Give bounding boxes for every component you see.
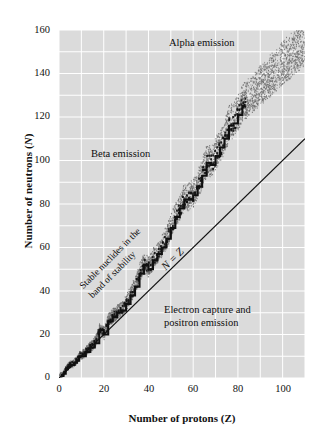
y-tick-120: 120 — [22, 110, 50, 121]
x-tick-40: 40 — [134, 383, 164, 394]
x-tick-60: 60 — [178, 383, 208, 394]
annotation-alpha-emission: Alpha emission — [169, 36, 235, 49]
plot-area: Alpha emission Beta emission Electron ca… — [59, 30, 305, 378]
y-tick-20: 20 — [22, 328, 50, 339]
y-tick-0: 0 — [22, 371, 50, 382]
x-tick-0: 0 — [44, 383, 74, 394]
annotation-electron-capture: Electron capture and positron emission — [164, 303, 251, 330]
annotation-electron-capture-line1: Electron capture and — [164, 303, 251, 316]
y-axis-title: Number of neutrons (N) — [22, 71, 34, 311]
y-tick-140: 140 — [22, 67, 50, 78]
y-tick-100: 100 — [22, 154, 50, 165]
annotation-electron-capture-line2: positron emission — [164, 316, 251, 329]
nuclear-stability-chart: Number of neutrons (N) 160 140 120 100 8… — [0, 0, 316, 447]
x-tick-80: 80 — [223, 383, 253, 394]
annotation-beta-emission: Beta emission — [91, 147, 150, 160]
x-tick-20: 20 — [89, 383, 119, 394]
y-tick-40: 40 — [22, 285, 50, 296]
x-axis-title: Number of protons (Z) — [59, 412, 305, 424]
y-tick-80: 80 — [22, 198, 50, 209]
y-axis-title-symbol: N — [22, 137, 34, 145]
x-tick-100: 100 — [268, 383, 298, 394]
y-tick-160: 160 — [22, 24, 50, 35]
y-tick-60: 60 — [22, 241, 50, 252]
y-axis-title-suffix: ) — [22, 133, 34, 137]
